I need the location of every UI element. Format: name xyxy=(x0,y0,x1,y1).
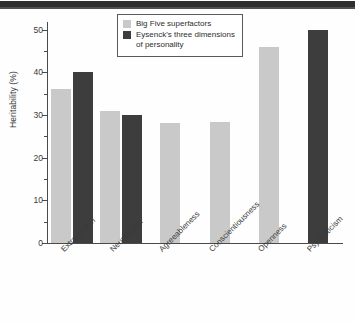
y-tick-label: 0 xyxy=(38,239,43,248)
y-tick-mark xyxy=(44,222,47,223)
y-tick-mark xyxy=(44,51,47,52)
legend-entry: Big Five superfactors xyxy=(123,19,235,29)
y-tick-mark xyxy=(44,179,47,180)
y-axis-line xyxy=(47,22,48,244)
y-tick-label: 30 xyxy=(34,111,43,120)
bar xyxy=(259,47,279,243)
bar xyxy=(100,111,120,243)
bar xyxy=(160,123,180,243)
light-gray-swatch xyxy=(123,20,131,28)
x-axis-line xyxy=(47,243,343,244)
y-tick-label: 20 xyxy=(34,153,43,162)
chart-legend: Big Five superfactorsEysenck's three dim… xyxy=(117,14,243,57)
legend-entry: Eysenck's three dimensions of personalit… xyxy=(123,30,235,50)
y-tick-mark xyxy=(44,94,47,95)
y-tick-label: 10 xyxy=(34,196,43,205)
dark-gray-swatch xyxy=(123,31,131,39)
bar xyxy=(51,89,71,243)
y-axis-title: Heritability (%) xyxy=(8,71,18,128)
y-tick-label: 40 xyxy=(34,68,43,77)
bar xyxy=(210,122,230,243)
page-scan-artifact-shadow xyxy=(0,7,355,9)
y-tick-mark xyxy=(44,136,47,137)
bar xyxy=(308,30,328,243)
figure-bar-chart: 01020304050 Heritability (%) Extraversio… xyxy=(0,0,355,322)
legend-label: Big Five superfactors xyxy=(136,19,211,29)
y-tick-label: 50 xyxy=(34,25,43,34)
legend-label: Eysenck's three dimensions of personalit… xyxy=(136,30,235,50)
